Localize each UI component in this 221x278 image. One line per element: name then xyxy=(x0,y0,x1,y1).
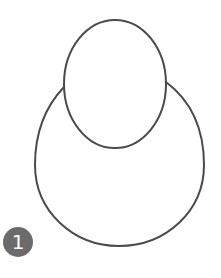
head-outline xyxy=(64,20,166,148)
step-number-badge: 1 xyxy=(3,227,33,257)
sketch-canvas xyxy=(0,0,221,278)
step-number-label: 1 xyxy=(12,232,25,252)
body-outline xyxy=(35,82,204,246)
